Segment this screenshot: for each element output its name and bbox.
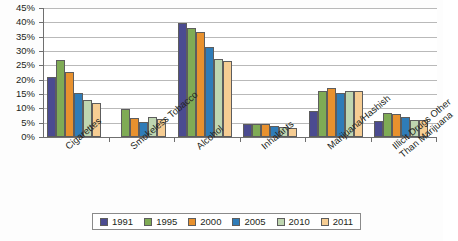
legend-item[interactable]: 2000 <box>188 217 221 227</box>
legend-swatch-icon <box>277 218 285 226</box>
bar <box>196 32 205 137</box>
bar <box>47 77 56 137</box>
legend-label: 1991 <box>112 217 133 227</box>
y-axis-label: 10% <box>16 103 35 112</box>
y-axis-label: 5% <box>21 118 35 127</box>
bar <box>327 88 336 137</box>
bar <box>374 121 383 137</box>
y-axis-label: 30% <box>16 46 35 55</box>
legend-label: 2005 <box>244 217 265 227</box>
legend-item[interactable]: 1991 <box>100 217 133 227</box>
bar-group <box>174 8 240 137</box>
legend-label: 2010 <box>289 217 310 227</box>
chart-legend: 199119952000200520102011 <box>92 213 361 230</box>
bar <box>252 124 261 137</box>
legend-item[interactable]: 2011 <box>321 217 353 227</box>
legend-swatch-icon <box>188 218 196 226</box>
bar <box>223 61 232 137</box>
x-axis-labels: CigarettesSmokeless TobaccoAlcoholInhala… <box>0 137 443 207</box>
bar <box>178 23 187 137</box>
legend-swatch-icon <box>321 218 329 226</box>
legend-swatch-icon <box>232 218 240 226</box>
y-axis-label: 45% <box>16 3 35 12</box>
legend-swatch-icon <box>144 218 152 226</box>
y-axis-label: 20% <box>16 75 35 84</box>
legend-item[interactable]: 1995 <box>144 217 177 227</box>
bar <box>309 111 318 137</box>
bar <box>121 109 130 137</box>
legend-label: 1995 <box>156 217 177 227</box>
bar <box>205 47 214 137</box>
y-axis-label: 40% <box>16 17 35 26</box>
bar <box>65 72 74 137</box>
bar <box>383 113 392 137</box>
legend-swatch-icon <box>100 218 108 226</box>
y-axis-label: 25% <box>16 60 35 69</box>
bar-group-bars <box>178 8 232 137</box>
bar <box>318 91 327 137</box>
y-axis-label: 15% <box>16 89 35 98</box>
bar-group <box>240 8 306 137</box>
bar-groups <box>43 8 436 137</box>
y-axis-label: 35% <box>16 32 35 41</box>
y-axis: 0%5%10%15%20%25%30%35%40%45% <box>0 0 40 145</box>
bar <box>243 124 252 137</box>
legend-item[interactable]: 2010 <box>277 217 310 227</box>
legend-label: 2000 <box>200 217 221 227</box>
legend-item[interactable]: 2005 <box>232 217 265 227</box>
bar <box>56 60 65 137</box>
legend-label: 2011 <box>333 217 353 227</box>
bar <box>187 28 196 137</box>
